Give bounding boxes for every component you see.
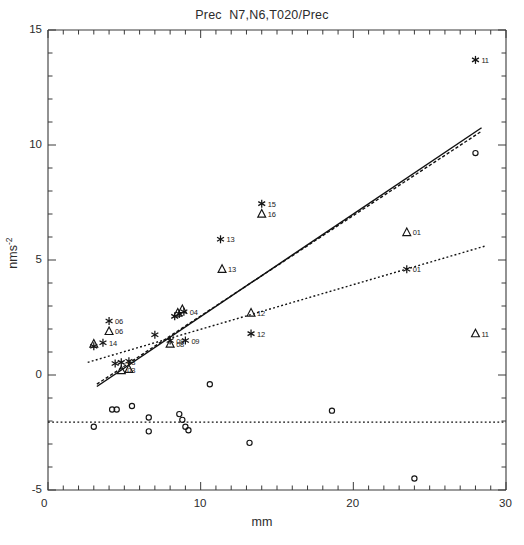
chart-title: Prec N7,N6,T020/Prec bbox=[0, 8, 524, 22]
y-tick-label: 0 bbox=[18, 368, 42, 380]
y-tick-label: 15 bbox=[18, 23, 42, 35]
data-point-label: 11 bbox=[481, 56, 488, 65]
plot-canvas bbox=[0, 0, 524, 545]
data-point bbox=[146, 429, 151, 434]
data-point bbox=[412, 476, 417, 481]
data-point-label: 01 bbox=[413, 228, 421, 237]
data-point-label: 16 bbox=[268, 210, 276, 219]
data-point bbox=[207, 382, 212, 387]
data-point-label: 03 bbox=[127, 366, 135, 375]
data-point bbox=[258, 210, 266, 218]
y-tick-label: 5 bbox=[18, 253, 42, 265]
data-point bbox=[218, 265, 226, 273]
fit-line-dashed-steep bbox=[97, 131, 482, 384]
data-point-label: 08 bbox=[176, 340, 184, 349]
data-point-label: 09 bbox=[191, 337, 199, 346]
series-circle bbox=[91, 150, 478, 481]
data-point bbox=[91, 424, 96, 429]
data-point bbox=[248, 330, 255, 338]
data-point bbox=[105, 327, 113, 335]
data-point bbox=[247, 309, 255, 317]
data-point bbox=[99, 339, 106, 347]
data-point bbox=[186, 428, 191, 433]
data-point bbox=[106, 317, 113, 325]
x-tick-label: 20 bbox=[346, 497, 359, 509]
data-point bbox=[146, 415, 151, 420]
axis-ticks bbox=[48, 30, 506, 490]
x-tick-label: 10 bbox=[194, 497, 207, 509]
data-point bbox=[217, 235, 224, 243]
x-tick-label: 0 bbox=[41, 497, 47, 509]
series-triangle bbox=[90, 210, 480, 374]
y-tick-label: 10 bbox=[18, 138, 42, 150]
y-axis-label-exponent: -2 bbox=[4, 237, 14, 245]
data-point-label: 11 bbox=[481, 330, 488, 339]
data-point bbox=[472, 329, 480, 337]
series-star bbox=[90, 56, 479, 368]
x-axis-label: mm bbox=[0, 515, 524, 529]
scatter-plot-figure: Prec N7,N6,T020/Prec nms-2 mm 0102030-50… bbox=[0, 0, 524, 545]
data-point-label: 13 bbox=[228, 265, 236, 274]
data-points bbox=[90, 56, 480, 481]
data-point bbox=[180, 417, 185, 422]
data-point bbox=[177, 412, 182, 417]
data-point-label: 13 bbox=[227, 235, 235, 244]
data-point bbox=[247, 440, 252, 445]
data-point bbox=[112, 360, 119, 368]
data-point-label: 06 bbox=[115, 317, 123, 326]
data-point bbox=[129, 403, 134, 408]
data-point-label: 12 bbox=[257, 309, 265, 318]
data-point bbox=[258, 200, 265, 208]
axis-left-bottom bbox=[48, 30, 506, 490]
data-point bbox=[403, 228, 411, 236]
fit-line-dotted-shallow bbox=[88, 246, 485, 362]
fit-lines bbox=[48, 128, 506, 422]
y-tick-label: -5 bbox=[18, 483, 42, 495]
data-point-label: 04 bbox=[190, 308, 198, 317]
data-point-label: 15 bbox=[268, 200, 276, 209]
data-point bbox=[329, 408, 334, 413]
data-point-label: 12 bbox=[257, 330, 265, 339]
data-point bbox=[473, 150, 478, 155]
data-point bbox=[151, 331, 158, 339]
data-point-label: 01 bbox=[413, 265, 421, 274]
axis-frame bbox=[48, 30, 506, 490]
data-point bbox=[403, 265, 410, 273]
x-tick-label: 30 bbox=[499, 497, 512, 509]
data-point-label: 14 bbox=[109, 339, 117, 348]
data-point-label: 06 bbox=[115, 327, 123, 336]
data-point bbox=[472, 56, 479, 64]
